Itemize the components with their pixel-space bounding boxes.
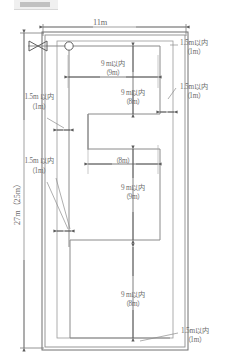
dimension-left-height	[20, 33, 44, 348]
label-branch1-span: 9 m以内 （9m）	[83, 60, 143, 78]
label-branch2-span: （8m）	[93, 157, 153, 166]
label-top-width: 11m	[85, 18, 115, 27]
label-clearance-top-right: 1.5m以内 （1m）	[180, 39, 207, 57]
label-clearance-right: 1.5m以内 （1m）	[180, 83, 207, 101]
label-right-mid-vertical: 9 m以内 （9m）	[103, 184, 163, 202]
diagram-canvas: 11m 27m（25m） 9 m以内 （9m） 9 m以内 （8m） （8m） …	[0, 0, 228, 362]
label-right-upper-vertical: 9 m以内 （8m）	[103, 89, 163, 107]
label-clearance-left-upper: 1.5m 以内 （1m）	[24, 93, 54, 112]
label-right-lower-vertical: 9 m以内 （8m）	[103, 291, 163, 309]
label-clearance-bottom-right: 1.5m以内 （1m）	[181, 327, 208, 345]
label-clearance-left-lower: 1.5m 以内 （1m）	[24, 157, 54, 176]
label-left-height: 27m（25m）	[10, 180, 22, 225]
riser-circle-symbol	[65, 42, 73, 50]
